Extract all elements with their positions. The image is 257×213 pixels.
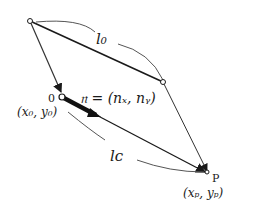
origin-point bbox=[59, 94, 65, 100]
upper-arc bbox=[36, 21, 95, 32]
upper-arc-right bbox=[118, 44, 163, 80]
origin-label: 0 bbox=[48, 92, 55, 105]
top-origin-arrow bbox=[30, 21, 61, 92]
normal-vector-label: 𝔫 = (nₓ, nᵧ) bbox=[80, 90, 156, 106]
lower-arc-label: lᴄ bbox=[110, 147, 124, 165]
origin-coords-label: (x₀, y₀) bbox=[17, 105, 57, 119]
target-coords-label: (xₚ, yₚ) bbox=[183, 186, 223, 200]
target-label: P bbox=[212, 172, 220, 185]
right-point bbox=[161, 80, 166, 85]
target-point bbox=[205, 170, 209, 174]
top-point bbox=[28, 19, 33, 24]
diagram-canvas: l₀ 0 𝔫 = (nₓ, nᵧ) (x₀, y₀) lᴄ P (xₚ, yₚ) bbox=[0, 0, 257, 213]
upper-arc-label: l₀ bbox=[96, 30, 107, 48]
right-target-arrow bbox=[163, 82, 207, 171]
